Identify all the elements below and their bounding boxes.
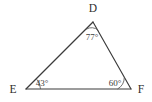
angle-label-D: 77° [86,32,99,42]
geometry-figure: D E F 77° 43° 60° [0,0,152,102]
triangle-diagram-svg: D E F 77° 43° 60° [0,0,152,102]
vertex-label-E: E [9,83,16,95]
vertex-label-F: F [138,83,144,95]
vertex-label-D: D [89,2,97,14]
angle-label-F: 60° [109,78,122,88]
angle-label-E: 43° [36,78,49,88]
